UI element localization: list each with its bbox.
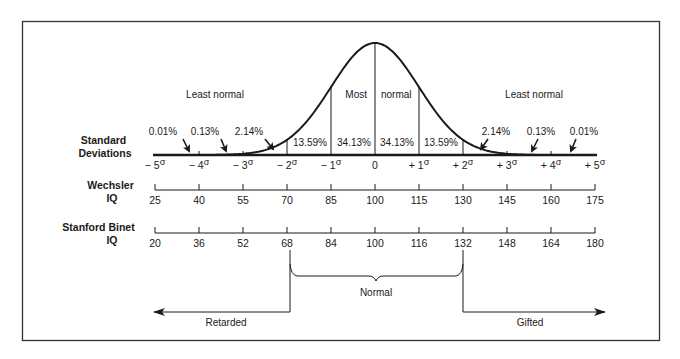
wechsler-tick-label: 115	[411, 194, 428, 206]
sigma-dividers	[199, 43, 551, 155]
arrow-icon	[183, 139, 189, 151]
normal-brace	[290, 264, 463, 281]
pct-0-pos1: 34.13%	[380, 137, 414, 148]
wechsler-tick-label: 175	[586, 194, 604, 206]
wechsler-tick-label: 85	[325, 194, 337, 206]
wechsler-tick-label: 100	[366, 194, 384, 206]
axis-label-std-dev: Standard Deviations	[78, 134, 131, 159]
wechsler-tick-label: 70	[281, 194, 293, 206]
pct-pos4-pos5: 0.01%	[570, 126, 598, 137]
arrow-icon	[571, 139, 576, 151]
pct-neg2-neg1: 13.59%	[293, 137, 327, 148]
axis-label-wechsler: Wechsler IQ	[87, 179, 136, 204]
stanford-binet-tick-label: 148	[498, 237, 516, 249]
sigma-tick-label: 0	[372, 159, 378, 171]
sigma-tick-label: − 5σ	[145, 157, 166, 171]
stanford-binet-tick-label: 36	[193, 237, 205, 249]
wechsler-tick-label: 160	[542, 194, 560, 206]
pct-pos1-pos2: 13.59%	[424, 137, 458, 148]
wechsler-tick-label: 55	[237, 194, 249, 206]
wechsler-tick-label: 40	[193, 194, 205, 206]
sigma-tick-label: − 1σ	[321, 157, 342, 171]
sigma-tick-label: − 3σ	[233, 157, 254, 171]
classification-gifted-label: Gifted	[517, 317, 544, 328]
stanford-binet-tick-label: 180	[586, 237, 604, 249]
classification-normal-label: Normal	[360, 287, 392, 298]
stanford-binet-tick-label: 132	[454, 237, 472, 249]
stanford-binet-tick-label: 84	[325, 237, 337, 249]
sigma-tick-label: + 2σ	[453, 157, 474, 171]
pct-pos3-pos4: 0.13%	[527, 126, 555, 137]
region-label-least-normal-left: Least normal	[186, 89, 244, 100]
stanford-binet-tick-label: 68	[281, 237, 293, 249]
wechsler-tick-label: 145	[498, 194, 516, 206]
region-label-least-normal-right: Least normal	[505, 89, 563, 100]
stanford-binet-tick-label: 20	[149, 237, 161, 249]
region-label-most: Most	[345, 89, 367, 100]
arrow-icon	[481, 139, 488, 149]
scale-axes: − 5σ− 4σ− 3σ− 2σ− 1σ0+ 1σ+ 2σ+ 3σ+ 4σ+ 5…	[145, 157, 606, 249]
region-label-normal: normal	[381, 89, 412, 100]
stanford-binet-tick-label: 116	[411, 237, 428, 249]
wechsler-tick-label: 130	[454, 194, 472, 206]
stanford-binet-tick-label: 164	[542, 237, 560, 249]
classification-retarded-label: Retarded	[205, 317, 246, 328]
sigma-tick-label: + 3σ	[497, 157, 518, 171]
sigma-tick-label: − 2σ	[277, 157, 298, 171]
arrow-icon	[221, 139, 226, 151]
axis-label-stanford-binet: Stanford Binet IQ	[62, 221, 137, 246]
pct-neg3-neg2: 2.14%	[235, 126, 263, 137]
sigma-tick-label: + 5σ	[585, 157, 606, 171]
pct-neg1-0: 34.13%	[337, 137, 371, 148]
stanford-binet-tick-label: 52	[237, 237, 249, 249]
sigma-tick-label: + 1σ	[409, 157, 430, 171]
stanford-binet-tick-label: 100	[366, 237, 384, 249]
classification-lines	[154, 250, 605, 312]
sigma-tick-label: + 4σ	[541, 157, 562, 171]
pct-neg5-neg4: 0.01%	[149, 126, 177, 137]
arrow-icon	[532, 139, 538, 151]
sigma-tick-label: − 4σ	[189, 157, 210, 171]
wechsler-tick-label: 25	[149, 194, 161, 206]
arrow-icon	[265, 139, 273, 149]
pct-neg4-neg3: 0.13%	[191, 126, 219, 137]
iq-distribution-figure: Least normal Most normal Least normal 13…	[0, 0, 680, 359]
pct-pos2-pos3: 2.14%	[482, 126, 510, 137]
